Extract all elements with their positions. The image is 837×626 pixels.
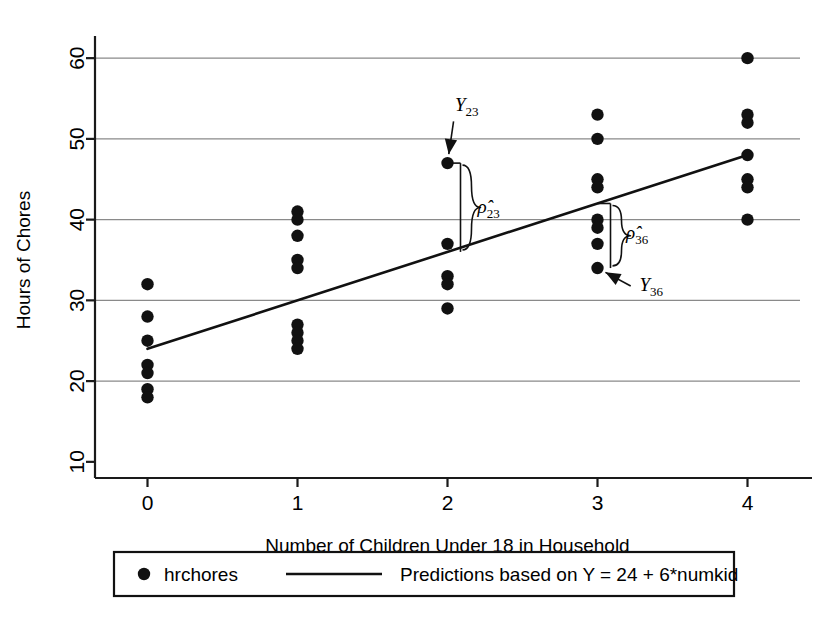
data-point bbox=[441, 302, 453, 314]
data-point bbox=[441, 278, 453, 290]
y-axis-title: Hours of Chores bbox=[13, 191, 34, 329]
data-point bbox=[741, 181, 753, 193]
y-tick-label-30: 30 bbox=[66, 289, 89, 312]
data-point bbox=[591, 222, 603, 234]
y-tick-label-10: 10 bbox=[66, 450, 89, 473]
data-point bbox=[291, 262, 303, 274]
x-tick-label-1: 1 bbox=[292, 491, 304, 514]
legend-label-prediction: Predictions based on Y = 24 + 6*numkid bbox=[400, 564, 738, 585]
data-point bbox=[441, 238, 453, 250]
legend-marker-hrchores-icon bbox=[138, 568, 150, 580]
data-point bbox=[741, 213, 753, 225]
data-point bbox=[141, 367, 153, 379]
y-tick-label-20: 20 bbox=[66, 369, 89, 392]
data-point bbox=[141, 278, 153, 290]
data-point bbox=[291, 343, 303, 355]
data-point bbox=[141, 391, 153, 403]
data-point bbox=[141, 310, 153, 322]
data-point bbox=[291, 213, 303, 225]
data-point bbox=[741, 117, 753, 129]
y-tick-label-50: 50 bbox=[66, 127, 89, 150]
data-point bbox=[591, 133, 603, 145]
y-tick-label-40: 40 bbox=[66, 208, 89, 231]
data-point bbox=[591, 181, 603, 193]
data-point bbox=[291, 230, 303, 242]
legend-label-hrchores: hrchores bbox=[164, 564, 238, 585]
data-point bbox=[741, 52, 753, 64]
data-point bbox=[591, 262, 603, 274]
data-point bbox=[591, 238, 603, 250]
data-point bbox=[141, 335, 153, 347]
x-tick-label-3: 3 bbox=[592, 491, 604, 514]
scatter-plot-figure: 102030405060 01234 Y23ρ̂23ρ̂36Y36 Number… bbox=[0, 0, 837, 626]
chart-canvas: 102030405060 01234 Y23ρ̂23ρ̂36Y36 Number… bbox=[0, 0, 837, 626]
x-tick-label-2: 2 bbox=[442, 491, 454, 514]
x-tick-label-4: 4 bbox=[742, 491, 754, 514]
data-point bbox=[591, 108, 603, 120]
figure-background bbox=[0, 0, 837, 626]
data-point bbox=[741, 149, 753, 161]
y-tick-label-60: 60 bbox=[66, 46, 89, 69]
x-tick-label-0: 0 bbox=[142, 491, 154, 514]
